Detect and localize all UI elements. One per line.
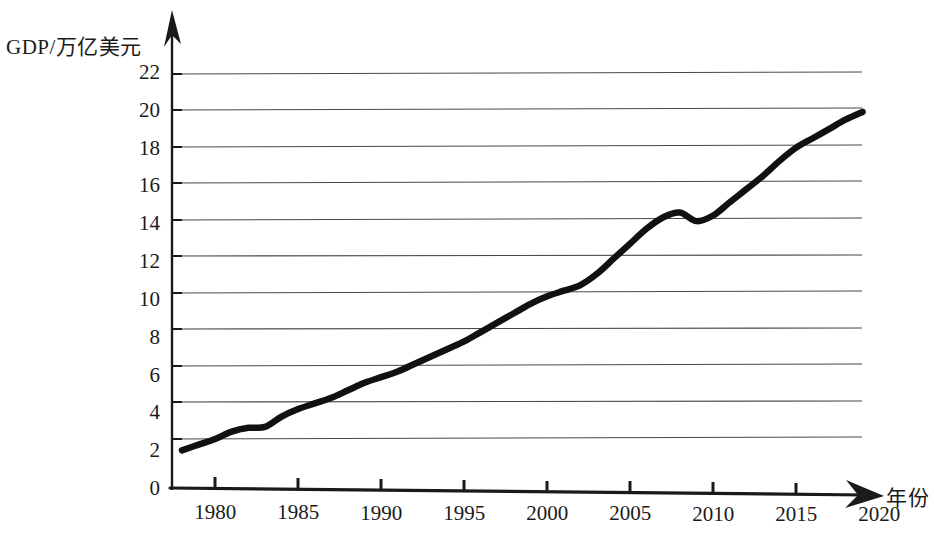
gridline-4 — [172, 401, 862, 402]
y-tick-label-0: 0 — [120, 476, 160, 501]
x-tick-label-2005: 2005 — [600, 501, 660, 526]
x-tick-label-1990: 1990 — [351, 501, 411, 526]
y-tick-label-2: 2 — [120, 438, 160, 463]
gridline-12 — [172, 255, 862, 256]
x-tick-label-2020: 2020 — [849, 502, 909, 527]
y-tick-marks — [172, 74, 182, 439]
y-tick-label-16: 16 — [120, 173, 160, 198]
x-tick-label-1980: 1980 — [185, 500, 245, 525]
y-tick-label-20: 20 — [120, 98, 160, 123]
gridline-2 — [172, 437, 862, 439]
x-tick-label-1985: 1985 — [268, 500, 328, 525]
gridline-20 — [172, 108, 862, 110]
y-axis-title: GDP/万亿美元 — [6, 30, 142, 60]
y-tick-label-8: 8 — [120, 325, 160, 350]
y-tick-label-18: 18 — [120, 136, 160, 161]
y-tick-label-6: 6 — [120, 363, 160, 388]
y-tick-label-22: 22 — [120, 60, 160, 85]
y-tick-label-4: 4 — [120, 400, 160, 425]
gdp-line-chart-figure: GDP/万亿美元 年份 0246810121416182022 19801985… — [0, 0, 934, 535]
y-tick-label-10: 10 — [120, 287, 160, 312]
gridline-18 — [172, 145, 862, 147]
y-tick-label-12: 12 — [120, 249, 160, 274]
x-tick-label-2000: 2000 — [517, 501, 577, 526]
gridline-22 — [172, 72, 862, 74]
x-tick-label-1995: 1995 — [434, 501, 494, 526]
x-tick-label-2015: 2015 — [766, 502, 826, 527]
gridline-14 — [172, 218, 862, 220]
gridlines — [172, 72, 862, 439]
y-axis — [164, 10, 181, 490]
gdp-data-curve — [182, 112, 863, 450]
y-tick-label-14: 14 — [120, 211, 160, 236]
gridline-8 — [172, 328, 862, 329]
x-tick-label-2010: 2010 — [683, 502, 743, 527]
gridline-10 — [172, 291, 862, 293]
gridline-6 — [172, 364, 862, 366]
